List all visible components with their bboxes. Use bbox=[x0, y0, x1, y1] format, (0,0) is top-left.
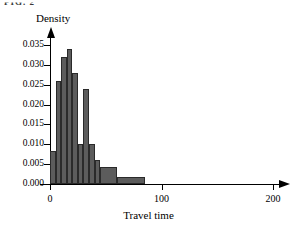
x-tick-label: 0 bbox=[30, 194, 70, 204]
y-tick-label: 0.035 bbox=[4, 40, 44, 50]
y-tick-label: 0.000 bbox=[4, 179, 44, 189]
y-tick-label: 0.025 bbox=[4, 80, 44, 90]
y-tick-label: 0.015 bbox=[4, 119, 44, 129]
y-tick-label: 0.020 bbox=[4, 100, 44, 110]
y-axis-arrow-icon bbox=[47, 27, 55, 38]
x-axis-label: Travel time bbox=[0, 209, 297, 221]
y-tick-label: 0.030 bbox=[4, 60, 44, 70]
x-axis-line bbox=[40, 184, 280, 185]
y-axis-label: Density bbox=[36, 12, 70, 24]
x-tick-label: 100 bbox=[142, 194, 182, 204]
x-tick-mark bbox=[273, 184, 274, 190]
plot-area bbox=[50, 45, 273, 184]
y-tick-label: 0.005 bbox=[4, 159, 44, 169]
histogram-bars bbox=[50, 45, 273, 184]
x-tick-mark bbox=[162, 184, 163, 190]
y-tick-label: 0.010 bbox=[4, 139, 44, 149]
histogram-figure: FIG. 2 Density 0.0000.0050.0100.0150.020… bbox=[0, 0, 297, 230]
histogram-bar bbox=[100, 167, 117, 184]
x-tick-label: 200 bbox=[253, 194, 293, 204]
histogram-bar bbox=[117, 177, 145, 184]
x-tick-mark bbox=[50, 184, 51, 190]
figure-caption-fragment: FIG. 2 bbox=[4, 0, 35, 7]
x-axis-arrow-icon bbox=[279, 180, 290, 188]
